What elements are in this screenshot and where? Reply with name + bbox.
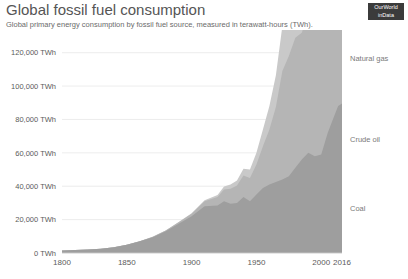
- x-axis-tick-label: 1800: [53, 258, 71, 267]
- logo-line-1: OurWorld: [368, 4, 404, 12]
- y-axis-tick-label: 60,000 TWh: [15, 149, 56, 158]
- series-label-crude-oil: Crude oil: [350, 135, 380, 144]
- chart-screenshot: Global fossil fuel consumption Global pr…: [0, 0, 408, 279]
- chart-subtitle: Global primary energy consumption by fos…: [6, 20, 313, 29]
- x-axis-tick-label: 1900: [183, 258, 201, 267]
- x-axis-tick-label: 2016: [333, 258, 351, 267]
- series-label-coal: Coal: [350, 204, 366, 213]
- y-axis-tick-label: 20,000 TWh: [15, 215, 56, 224]
- x-axis-tick-label: 1950: [248, 258, 266, 267]
- stacked-area-chart: 0 TWh20,000 TWh40,000 TWh60,000 TWh80,00…: [0, 30, 408, 279]
- y-axis-tick-label: 0 TWh: [34, 249, 56, 258]
- x-axis-tick-label: 1850: [118, 258, 136, 267]
- y-axis-tick-label: 40,000 TWh: [15, 182, 56, 191]
- y-axis-tick-label: 80,000 TWh: [15, 115, 56, 124]
- logo-line-2: inData: [368, 12, 404, 20]
- y-axis-tick-label: 100,000 TWh: [11, 82, 56, 91]
- our-world-in-data-logo[interactable]: OurWorld inData: [368, 3, 404, 20]
- x-axis-tick-label: 2000: [312, 258, 330, 267]
- chart-area: 0 TWh20,000 TWh40,000 TWh60,000 TWh80,00…: [0, 30, 408, 279]
- series-label-natural-gas: Natural gas: [350, 54, 389, 63]
- page-title: Global fossil fuel consumption: [6, 1, 205, 18]
- y-axis-tick-label: 120,000 TWh: [11, 48, 56, 57]
